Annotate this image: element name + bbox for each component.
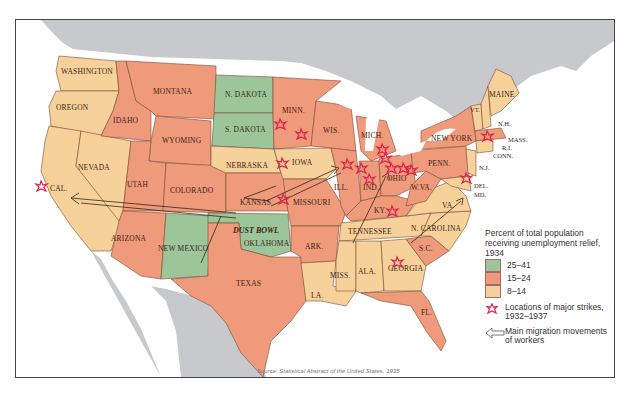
- legend-migration-label: Main migration movements of workers: [505, 327, 615, 345]
- label-tennessee: TENNESSEE: [348, 227, 392, 236]
- swatch-low: [485, 285, 501, 298]
- label-ark: ARK.: [305, 242, 324, 251]
- label-conn: CONN.: [493, 152, 513, 159]
- label-ill: ILL.: [334, 183, 348, 192]
- label-utah: UTAH: [127, 180, 148, 189]
- label-maine: MAINE: [489, 90, 515, 99]
- swatch-mid: [485, 272, 501, 285]
- legend-label-high: 25–41: [507, 260, 531, 270]
- label-nevada: NEVADA: [78, 163, 110, 172]
- legend-item-high: 25–41: [485, 259, 615, 271]
- label-colorado: COLORADO: [170, 186, 214, 195]
- source-note: Source: Statistical Abstract of the Unit…: [257, 368, 400, 374]
- label-miss: MISS.: [330, 271, 350, 280]
- arrow-left-icon: [485, 327, 505, 341]
- source-title: Statistical Abstract of the United State…: [279, 368, 399, 374]
- swatch-high: [485, 259, 501, 272]
- legend: Percent of total population receiving un…: [485, 228, 615, 345]
- legend-item-mid: 15–24: [485, 272, 615, 284]
- legend-item-low: 8–14: [485, 285, 615, 297]
- legend-strikes: Locations of major strikes, 1932–1937: [485, 303, 615, 321]
- strike-icon: [485, 303, 505, 317]
- label-missouri: MISSOURI: [293, 198, 331, 207]
- label-nh: N.H.: [498, 120, 511, 127]
- label-ky: KY.: [374, 206, 386, 215]
- label-mich: MICH.: [361, 131, 383, 140]
- label-s-dakota: S. DAKOTA: [225, 125, 266, 134]
- label-mass: MASS.: [508, 136, 528, 143]
- legend-label-low: 8–14: [507, 286, 526, 296]
- label-nj: N.J.: [479, 164, 490, 171]
- label-cal: CAL.: [50, 184, 68, 193]
- label-del: DEL.: [474, 182, 489, 189]
- source-prefix: Source:: [257, 368, 279, 374]
- legend-label-mid: 15–24: [507, 273, 531, 283]
- label-md: MD.: [474, 191, 486, 198]
- label-vt: VT.: [470, 106, 480, 113]
- state-indiana: [359, 161, 381, 201]
- label-ri: R.I.: [502, 144, 512, 151]
- label-w-va: W.VA.: [411, 183, 432, 192]
- label-new-mexico: NEW MEXICO: [158, 244, 209, 253]
- label-montana: MONTANA: [153, 87, 193, 96]
- legend-migration: Main migration movements of workers: [485, 327, 615, 345]
- label-dust-bowl: DUST BOWL: [232, 226, 279, 235]
- label-ala: ALA.: [358, 267, 376, 276]
- label-iowa: IOWA: [292, 158, 313, 167]
- label-nebraska: NEBRASKA: [226, 161, 268, 170]
- state-mississippi: [336, 241, 356, 291]
- label-wis: WIS.: [323, 126, 339, 135]
- label-texas: TEXAS: [236, 279, 261, 288]
- label-sc: S.C.: [419, 244, 433, 253]
- label-oregon: OREGON: [56, 103, 89, 112]
- label-new-york: NEW YORK: [431, 134, 473, 143]
- label-minn: MINN.: [282, 106, 305, 115]
- label-fl: FL.: [421, 308, 432, 317]
- label-ohio: OHIO: [387, 174, 407, 183]
- label-la: LA.: [311, 291, 323, 300]
- label-penn: PENN.: [428, 159, 450, 168]
- legend-title: Percent of total population receiving un…: [485, 228, 615, 258]
- label-washington: WASHINGTON: [61, 67, 113, 76]
- label-oklahoma: OKLAHOMA: [244, 239, 290, 248]
- label-n-carolina: N. CAROLINA: [411, 224, 461, 233]
- label-arizona: ARIZONA: [111, 234, 147, 243]
- state-florida: [361, 291, 446, 351]
- label-wyoming: WYOMING: [162, 136, 202, 145]
- state-connecticut: [476, 139, 493, 153]
- label-n-dakota: N. DAKOTA: [225, 90, 267, 99]
- legend-strikes-label: Locations of major strikes, 1932–1937: [505, 303, 615, 321]
- label-idaho: IDAHO: [113, 116, 139, 125]
